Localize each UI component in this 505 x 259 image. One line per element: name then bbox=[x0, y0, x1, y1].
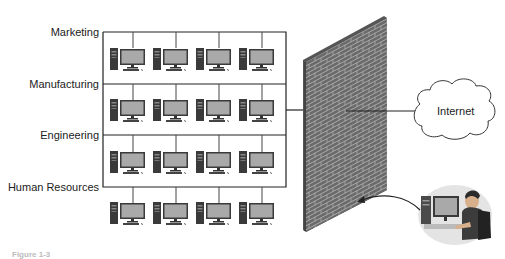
engineering-computers bbox=[110, 135, 274, 174]
department-label-marketing: Marketing bbox=[51, 26, 99, 38]
department-label-human-resources: Human Resources bbox=[8, 181, 99, 193]
remote-access-arrow bbox=[357, 196, 420, 210]
figure-caption: Figure 1-3 bbox=[12, 250, 50, 259]
marketing-computers bbox=[110, 32, 274, 71]
human-resources-computers bbox=[110, 187, 274, 225]
department-label-engineering: Engineering bbox=[40, 129, 99, 141]
department-label-manufacturing: Manufacturing bbox=[29, 78, 99, 90]
user-at-workstation-icon bbox=[418, 185, 492, 245]
internet-label: Internet bbox=[437, 105, 474, 117]
brick-wall-icon bbox=[303, 16, 387, 232]
manufacturing-computers bbox=[110, 84, 274, 122]
